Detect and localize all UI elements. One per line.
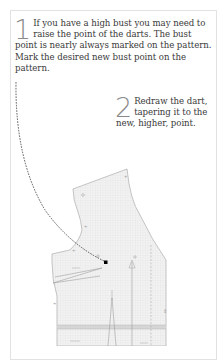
bodice-pattern-piece: + + + ⇕ + [52,169,167,346]
svg-text:+: + [53,301,56,306]
bust-point-marker [104,261,108,265]
svg-text:⇕: ⇕ [163,308,167,314]
svg-text:+: + [124,174,127,179]
svg-text:+: + [72,248,75,253]
svg-text:+: + [84,224,87,229]
